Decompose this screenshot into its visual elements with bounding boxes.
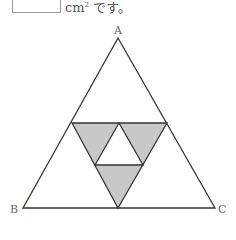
vertex-label-c: C (218, 203, 226, 216)
shaded-triangle-left (72, 123, 119, 165)
vertex-label-b: B (10, 203, 18, 216)
vertex-label-a: A (114, 24, 122, 37)
shaded-triangle-bottom (95, 165, 143, 208)
shaded-triangle-right (119, 123, 167, 165)
